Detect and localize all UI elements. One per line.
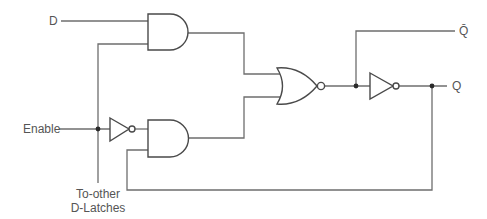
junction-enable [96, 127, 101, 132]
and-gate-bottom [148, 120, 189, 157]
inverter-bubble [129, 126, 135, 132]
label-enable: Enable [23, 122, 61, 136]
label-to-other: To-other [76, 187, 120, 201]
label-q: Q [452, 79, 461, 93]
junction-qbar [354, 84, 359, 89]
and-gate-top [148, 14, 188, 50]
inverter-output-triangle [370, 73, 393, 99]
junction-q [430, 84, 435, 89]
wire-and-bottom-to-nor [188, 97, 281, 138]
inverter-triangle [110, 118, 129, 141]
inverter-enable [110, 118, 135, 141]
nor-bubble [317, 82, 324, 89]
d-latch-diagram: D Enable To-other D-Latches Q Q̄ [0, 0, 487, 219]
label-d: D [49, 14, 58, 28]
wires [59, 21, 455, 190]
label-d-latches: D-Latches [71, 201, 126, 215]
nor-body [277, 68, 317, 104]
nor-gate [277, 68, 325, 104]
label-qbar: Q̄ [459, 24, 468, 38]
wire-and-top-to-nor [188, 33, 281, 74]
inverter-output [370, 73, 399, 99]
wire-enable-bus [98, 44, 148, 183]
inverter-output-bubble [393, 83, 399, 89]
